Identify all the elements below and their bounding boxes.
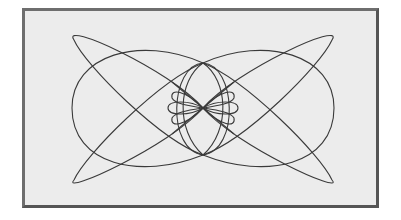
outer-loops xyxy=(72,35,334,183)
left-lower-narrow-loop xyxy=(73,63,203,183)
left-upper-narrow-loop xyxy=(73,35,203,155)
right-lower-narrow-loop xyxy=(203,63,333,183)
right-upper-narrow-loop xyxy=(203,35,333,155)
center-lobes xyxy=(168,63,238,155)
parametric-curve-plot xyxy=(0,0,401,220)
